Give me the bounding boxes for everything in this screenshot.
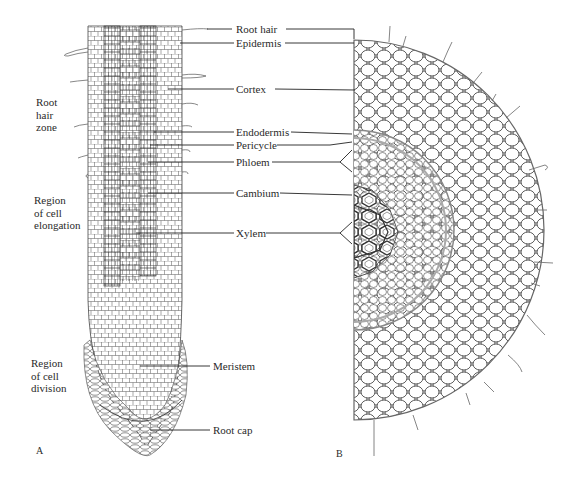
- zone-root-hair: Root hair zone: [36, 96, 57, 134]
- label-cambium: Cambium: [236, 187, 279, 199]
- label-pericycle: Pericycle: [236, 139, 277, 151]
- cross-section: [254, 26, 553, 456]
- label-root-hair: Root hair: [236, 23, 277, 35]
- label-cortex: Cortex: [236, 83, 266, 95]
- label-epidermis: Epidermis: [236, 37, 281, 49]
- label-phloem: Phloem: [236, 156, 270, 168]
- label-meristem: Meristem: [213, 360, 255, 372]
- zone-cell-division: Region of cell division: [31, 357, 66, 395]
- root-hairs-left: [64, 48, 88, 178]
- root-anatomy-illustration: [0, 0, 587, 485]
- panel-label-a: A: [36, 445, 43, 456]
- longitudinal-root-section: [64, 26, 208, 456]
- root-hairs-right: [182, 29, 208, 174]
- label-xylem: Xylem: [236, 227, 266, 239]
- panel-label-b: B: [336, 448, 343, 459]
- label-root-cap: Root cap: [213, 424, 252, 436]
- label-endodermis: Endodermis: [236, 126, 289, 138]
- zone-cell-elongation: Region of cell elongation: [34, 194, 80, 232]
